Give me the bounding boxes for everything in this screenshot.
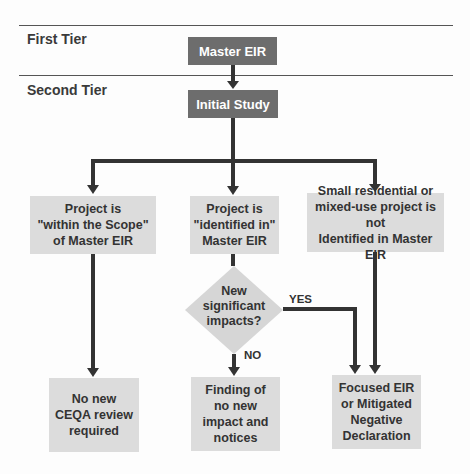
node-master-eir: Master EIR — [188, 37, 277, 65]
node-within-scope: Project is "within the Scope" of Master … — [30, 196, 156, 254]
node-not-identified: Small residential or mixed-use project i… — [307, 193, 444, 252]
node-finding: Finding of no new impact and notices — [191, 377, 280, 451]
node-no-review: No new CEQA review required — [49, 378, 139, 452]
flowchart-canvas: First Tier Second Tier — [0, 0, 470, 474]
decision-text: New significant impacts? — [194, 284, 274, 329]
node-initial-study: Initial Study — [188, 90, 278, 118]
node-identified-in: Project is "identified in" Master EIR — [190, 196, 279, 254]
no-label: NO — [244, 349, 261, 361]
yes-label: YES — [289, 293, 312, 305]
node-focused-eir: Focused EIR or Mitigated Negative Declar… — [332, 375, 421, 449]
